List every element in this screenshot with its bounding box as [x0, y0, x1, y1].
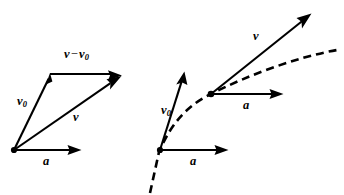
trajectory-point-1-dot [157, 147, 163, 153]
left-v0-label-subscript: 0 [23, 99, 27, 109]
left-a-label: a [43, 155, 49, 168]
trajectory-point-2-dot [208, 91, 215, 98]
right-a-label-2-symbol: a [243, 98, 249, 112]
trajectory-curve [150, 50, 337, 193]
left-v-vector [14, 76, 122, 150]
left-v0-vector [14, 73, 52, 150]
left-v-label-symbol: v [73, 110, 79, 124]
right-a-vector-2-arrowhead [270, 89, 284, 99]
right-v-label: v [253, 30, 259, 43]
left-delta-v-label-v1: v [64, 47, 70, 61]
vector-diagram-svg [0, 0, 344, 195]
right-v-label-symbol: v [253, 29, 259, 43]
right-a-label-2: a [243, 99, 249, 112]
left-v-vector-shaft [14, 83, 111, 150]
left-panel-vector-triangle [11, 70, 122, 155]
right-a-vector-1-arrowhead [215, 145, 229, 155]
left-v-label: v [73, 111, 79, 124]
right-a-label-1: a [190, 155, 196, 168]
right-v0-label-subscript: 0 [167, 108, 171, 118]
left-a-vector-arrowhead [68, 145, 82, 155]
left-delta-v-label-subscript: 0 [85, 52, 89, 62]
left-delta-v-label: v−v0 [64, 48, 89, 62]
right-v-vector-arrowhead [297, 14, 312, 29]
left-delta-v-label-minus: − [70, 47, 79, 61]
figure-canvas: v0 v−v0 v a v0 a v a [0, 0, 344, 195]
left-v0-label: v0 [17, 95, 27, 109]
right-a-label-1-symbol: a [190, 154, 196, 168]
left-origin-dot [11, 147, 17, 153]
right-v0-label: v0 [161, 104, 171, 118]
left-a-label-symbol: a [43, 154, 49, 168]
left-v-vector-arrowhead [107, 76, 122, 90]
left-v0-vector-shaft [14, 79, 49, 150]
right-v-vector [211, 14, 312, 94]
